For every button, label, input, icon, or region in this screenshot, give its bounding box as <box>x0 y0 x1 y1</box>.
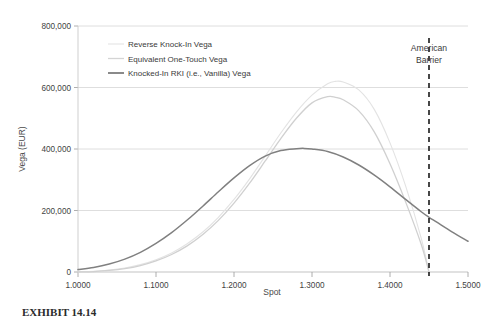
x-tick-label: 1.2000 <box>221 281 246 290</box>
vega-line-chart: 0200,000400,000600,000800,000 1.00001.10… <box>0 0 485 317</box>
figure-caption: EXHIBIT 14.14 <box>22 306 482 317</box>
legend-item-label: Reverse Knock-In Vega <box>128 40 213 49</box>
figure-caption-number: EXHIBIT 14.14 <box>22 306 96 317</box>
x-tick-label: 1.5000 <box>455 281 480 290</box>
x-tick-label: 1.1000 <box>143 281 168 290</box>
figure-container: 0200,000400,000600,000800,000 1.00001.10… <box>0 0 485 317</box>
legend-item-label: Knocked-In RKI (i.e., Vanilla) Vega <box>128 69 251 78</box>
x-tick-label: 1.3000 <box>299 281 324 290</box>
american-barrier-label-line1: American <box>411 43 448 53</box>
x-tick-label: 1.4000 <box>377 281 402 290</box>
y-axis-title: Vega (EUR) <box>17 126 27 172</box>
american-barrier-label-line2: Barrier <box>416 55 442 65</box>
legend-item-label: Equivalent One-Touch Vega <box>128 55 228 64</box>
x-tick-label: 1.0000 <box>65 281 90 290</box>
y-tick-label: 600,000 <box>41 84 71 93</box>
y-tick-label: 800,000 <box>41 22 71 31</box>
y-tick-label: 400,000 <box>41 145 71 154</box>
y-tick-label: 0 <box>66 268 71 277</box>
x-axis-title: Spot <box>263 287 281 297</box>
y-tick-label: 200,000 <box>41 207 71 216</box>
